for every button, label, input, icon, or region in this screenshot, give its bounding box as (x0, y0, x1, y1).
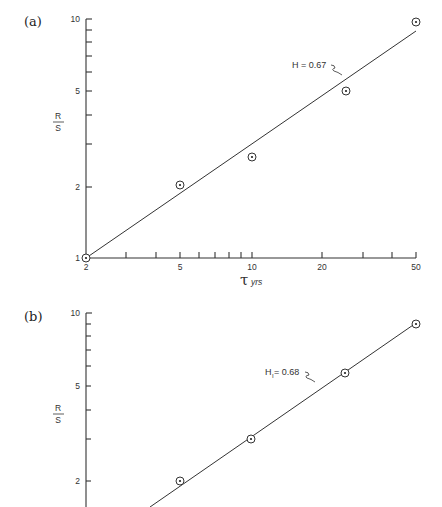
y-axis-label: R S (53, 403, 64, 425)
fit-line (86, 31, 416, 258)
x-tick-label: 50 (411, 262, 421, 272)
panel-b-label: (b) (24, 309, 42, 324)
fit-annotation: H = 0.67 (292, 60, 326, 70)
x-tick-label: 2 (84, 262, 89, 272)
y-tick-label: 2 (75, 476, 80, 486)
annotation-leader (331, 65, 342, 75)
svg-text:τ: τ (240, 271, 248, 289)
svg-text:S: S (55, 415, 61, 425)
x-tick-label: 10 (247, 262, 257, 272)
panel-a: (a) 10 5 2 1 R S (24, 14, 421, 289)
data-point (176, 181, 184, 189)
svg-text:R: R (55, 403, 61, 413)
svg-text:H: H (265, 367, 272, 377)
data-point (176, 477, 184, 485)
data-point (342, 87, 350, 95)
y-tick-label: 5 (75, 86, 80, 96)
annotation-leader (305, 372, 315, 382)
svg-text:yrs: yrs (250, 277, 263, 287)
x-axis-label: τ yrs (240, 271, 263, 289)
figure: (a) 10 5 2 1 R S (0, 0, 442, 507)
y-tick-label: 10 (71, 14, 81, 24)
panel-b: (b) 10 5 2 R S H I = 0.68 (24, 308, 420, 507)
y-tick-label: 10 (71, 308, 81, 318)
data-point (341, 369, 349, 377)
svg-text:S: S (55, 123, 61, 133)
y-tick-label: 1 (75, 253, 80, 263)
fit-line (150, 323, 416, 507)
y-tick-label: 5 (75, 381, 80, 391)
y-axis-label: R S (53, 111, 64, 133)
panel-a-label: (a) (24, 14, 42, 29)
data-point (412, 18, 420, 26)
svg-text:= 0.68: = 0.68 (274, 367, 299, 377)
data-point (412, 320, 420, 328)
data-point (82, 254, 90, 262)
y-tick-label: 2 (75, 182, 80, 192)
svg-text:R: R (55, 111, 61, 121)
x-tick-label: 20 (317, 262, 327, 272)
fit-annotation: H I = 0.68 (265, 367, 299, 379)
x-tick-label: 5 (178, 262, 183, 272)
data-point (248, 153, 256, 161)
data-point (247, 435, 255, 443)
